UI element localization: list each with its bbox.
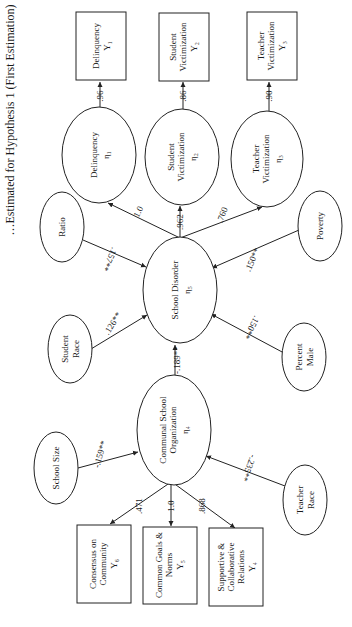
svg-text:η₄: η₄ bbox=[180, 426, 190, 434]
node-delinquency-y1: Delinquency Y₁ bbox=[76, 12, 126, 80]
svg-text:Y₆: Y₆ bbox=[109, 559, 119, 569]
node-teacher-race: Teacher Race bbox=[283, 465, 327, 535]
svg-text:School Size: School Size bbox=[51, 447, 61, 490]
edge-communal-disorder: -.189** bbox=[172, 345, 182, 376]
svg-text:School Disorder: School Disorder bbox=[170, 261, 180, 320]
edge-teacher-vict-loading: .90 bbox=[264, 82, 274, 111]
svg-text:Victimization: Victimization bbox=[266, 21, 276, 70]
svg-text:η₂: η₂ bbox=[188, 153, 198, 161]
svg-text:-.189**: -.189** bbox=[172, 346, 182, 374]
edge-communal-common-goals: 1.0 bbox=[166, 484, 176, 526]
node-school-disorder-eta5: School Disorder η₅ bbox=[143, 237, 217, 343]
node-percent-male: Percent Male bbox=[282, 323, 326, 391]
svg-text:-.159**: -.159** bbox=[91, 439, 108, 469]
svg-text:1.0: 1.0 bbox=[131, 204, 145, 219]
node-school-size: School Size bbox=[34, 432, 78, 504]
svg-text:Student: Student bbox=[168, 33, 178, 61]
node-common-goals-norms-y5: Common Goals & Norms Y₅ bbox=[143, 527, 197, 604]
edge-percent-male-disorder: .150** bbox=[211, 314, 284, 353]
node-consensus-on-community-y6: Consensus on Community Y₆ bbox=[77, 525, 131, 603]
svg-text:Relations: Relations bbox=[236, 550, 246, 584]
node-student-victimization-eta2: Student Victimization η₂ bbox=[145, 109, 219, 205]
svg-text:Delinquency: Delinquency bbox=[91, 23, 101, 69]
node-ratio: Ratio bbox=[40, 192, 84, 262]
svg-text:.868: .868 bbox=[197, 498, 207, 514]
edge-disorder-teacher-vict: .760 bbox=[180, 205, 262, 238]
svg-text:.150**: .150** bbox=[241, 314, 262, 341]
svg-text:.471: .471 bbox=[134, 498, 144, 514]
figure-title: …Estimated for Hypothesis 1 (First Estim… bbox=[3, 5, 17, 236]
edge-teacher-race-communal: -.235** bbox=[206, 453, 285, 486]
svg-text:Consensus on: Consensus on bbox=[88, 539, 98, 589]
svg-text:-.235**: -.235** bbox=[239, 453, 258, 483]
svg-text:.760: .760 bbox=[215, 205, 230, 224]
svg-text:Victimization: Victimization bbox=[178, 22, 188, 71]
svg-text:Percent: Percent bbox=[294, 343, 304, 370]
svg-text:Ratio: Ratio bbox=[57, 217, 67, 237]
svg-text:Y₃: Y₃ bbox=[277, 41, 287, 51]
node-teacher-victimization-y3: Teacher Victimization Y₃ bbox=[247, 12, 297, 80]
edge-disorder-delinquency: 1.0 bbox=[108, 203, 180, 238]
node-supportive-collaborative-relations-y4: Supportive & Collaborative Relations Y₄ bbox=[209, 528, 263, 606]
svg-text:1.0: 1.0 bbox=[166, 500, 176, 512]
svg-text:.96: .96 bbox=[95, 90, 105, 102]
edge-communal-consensus: .471 bbox=[110, 482, 171, 524]
svg-text:η₅: η₅ bbox=[182, 286, 192, 294]
svg-text:…Estimated for Hypothesis 1 (F: …Estimated for Hypothesis 1 (First Estim… bbox=[3, 5, 17, 236]
svg-text:Common Goals &: Common Goals & bbox=[154, 532, 164, 598]
svg-text:Student: Student bbox=[166, 143, 176, 171]
svg-text:.150**: .150** bbox=[243, 246, 262, 273]
edge-disorder-student-vict: .962 bbox=[175, 206, 185, 238]
svg-text:Y₄: Y₄ bbox=[247, 562, 257, 572]
svg-text:Teacher: Teacher bbox=[295, 486, 305, 514]
node-communal-school-organization-eta4: Communal School Organization η₄ bbox=[137, 375, 211, 485]
svg-text:Norms: Norms bbox=[164, 552, 174, 577]
svg-text:Male: Male bbox=[305, 348, 315, 367]
edge-communal-supportive: .868 bbox=[172, 482, 235, 528]
edge-poverty-disorder: .150** bbox=[212, 230, 299, 273]
node-student-victimization-y2: Student Victimization Y₂ bbox=[159, 13, 209, 81]
path-diagram: …Estimated for Hypothesis 1 (First Estim… bbox=[0, 0, 352, 627]
svg-text:.962: .962 bbox=[175, 214, 185, 230]
node-student-race: Student Race bbox=[48, 315, 92, 383]
svg-text:Victimization: Victimization bbox=[261, 134, 271, 183]
svg-text:.90: .90 bbox=[264, 90, 274, 102]
svg-text:Y₅: Y₅ bbox=[175, 560, 185, 570]
edge-student-vict-loading: .86 bbox=[178, 82, 188, 109]
svg-text:.86: .86 bbox=[178, 90, 188, 102]
edge-student-race-disorder: .126** bbox=[91, 310, 147, 349]
svg-text:Collaborative: Collaborative bbox=[226, 543, 236, 592]
svg-text:Victimization: Victimization bbox=[176, 132, 186, 181]
svg-text:Student: Student bbox=[60, 335, 70, 363]
node-teacher-victimization-eta3: Teacher Victimization η₃ bbox=[231, 111, 303, 207]
edge-delinquency-loading: .96 bbox=[95, 82, 105, 107]
node-delinquency-eta1: Delinquency η₁ bbox=[62, 107, 136, 203]
svg-text:Race: Race bbox=[71, 340, 81, 358]
svg-text:Y₂: Y₂ bbox=[189, 42, 199, 52]
svg-text:Teacher: Teacher bbox=[256, 32, 266, 60]
svg-text:η₁: η₁ bbox=[101, 151, 111, 159]
svg-text:η₃: η₃ bbox=[273, 155, 283, 163]
svg-text:Teacher: Teacher bbox=[251, 145, 261, 173]
svg-text:.157**: .157** bbox=[100, 246, 120, 273]
svg-text:Organization: Organization bbox=[168, 406, 178, 453]
svg-text:Delinquency: Delinquency bbox=[89, 132, 99, 178]
svg-text:Supportive &: Supportive & bbox=[216, 543, 226, 592]
svg-text:.126**: .126** bbox=[102, 310, 124, 337]
svg-text:Communal School: Communal School bbox=[158, 396, 168, 464]
svg-text:Y₁: Y₁ bbox=[102, 41, 112, 51]
node-poverty: Poverty bbox=[298, 191, 342, 261]
svg-text:Community: Community bbox=[98, 542, 108, 586]
edge-school-size-communal: -.159** bbox=[78, 439, 138, 469]
edge-ratio-disorder: .157** bbox=[83, 240, 146, 273]
svg-text:Poverty: Poverty bbox=[315, 212, 325, 240]
svg-text:Race: Race bbox=[306, 491, 316, 509]
